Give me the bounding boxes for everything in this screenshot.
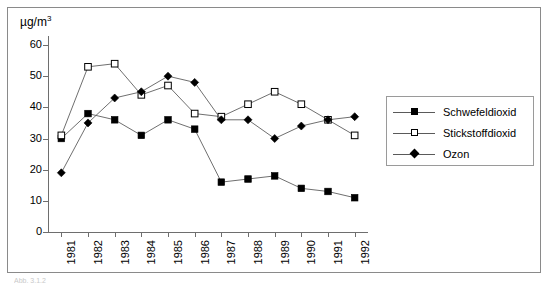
filled-diamond-icon [410,149,420,159]
filled-square-marker [298,185,305,192]
legend-swatch-ozon [393,148,435,160]
open-square-marker [165,82,172,89]
open-square-marker [191,110,198,117]
filled-square-marker [191,126,198,133]
legend-label-ozon: Ozon [443,148,469,160]
series-line [61,64,354,136]
filled-diamond-marker [297,122,305,130]
filled-square-icon [411,108,418,115]
filled-square-marker [138,132,145,139]
filled-square-marker [351,194,358,201]
open-square-marker [298,101,305,108]
legend-swatch-stickstoffdioxid [393,127,435,139]
filled-diamond-marker [191,78,199,86]
filled-square-marker [271,173,278,180]
open-square-marker [271,88,278,95]
filled-square-marker [325,188,332,195]
figure-caption: Abb. 3.1.2 [14,277,234,284]
series-stickstoffdioxid [58,60,358,138]
filled-diamond-marker [271,135,279,143]
open-square-marker [111,60,118,67]
series-line [61,114,354,198]
chart-legend: Schwefeldioxid Stickstoffdioxid Ozon [386,96,534,166]
legend-item-stickstoffdioxid: Stickstoffdioxid [393,125,516,141]
series-schwefeldioxid [58,110,358,201]
open-square-marker [85,64,92,71]
legend-item-ozon: Ozon [393,146,469,162]
filled-square-marker [245,176,252,183]
filled-diamond-marker [57,169,65,177]
filled-square-marker [85,110,92,117]
open-square-marker [58,132,65,139]
filled-square-marker [218,179,225,186]
filled-diamond-marker [244,116,252,124]
filled-square-marker [165,117,172,124]
filled-diamond-marker [351,113,359,121]
filled-diamond-marker [164,72,172,80]
legend-label-stickstoffdioxid: Stickstoffdioxid [443,127,516,139]
legend-item-schwefeldioxid: Schwefeldioxid [393,104,516,120]
series-line [61,76,354,173]
legend-label-schwefeldioxid: Schwefeldioxid [443,106,516,118]
filled-square-marker [111,117,118,124]
series-ozon [57,72,358,177]
open-square-icon [411,129,418,136]
open-square-marker [245,101,252,108]
open-square-marker [351,132,358,139]
chart-figure: µg/m3 0102030405060 19811982198319841985… [7,7,541,273]
legend-swatch-schwefeldioxid [393,106,435,118]
